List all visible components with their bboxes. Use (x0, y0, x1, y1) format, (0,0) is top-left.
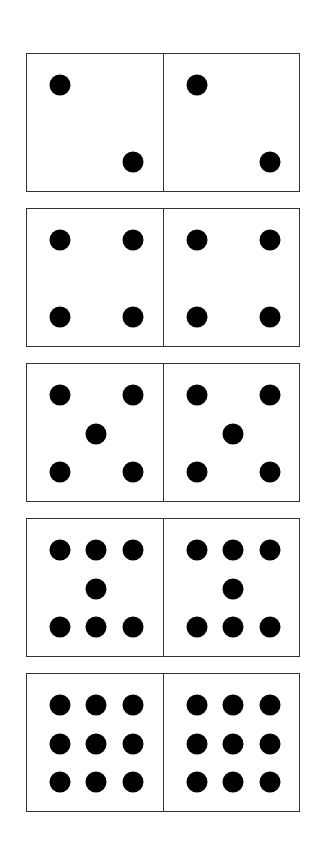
domino-half-left (27, 519, 164, 655)
pip-dot (260, 307, 281, 328)
domino-divider (163, 364, 164, 501)
pip-dot (86, 540, 107, 561)
pip-dot (260, 152, 281, 173)
pip-dot (223, 695, 244, 716)
pip-dot (187, 772, 208, 793)
pip-dot (123, 385, 144, 406)
domino-half-right (164, 209, 301, 345)
pip-dot (50, 385, 71, 406)
domino-half-right (164, 364, 301, 500)
domino-half-left (27, 209, 164, 345)
pip-dot (86, 617, 107, 638)
pip-dot (187, 75, 208, 96)
pip-dot (187, 307, 208, 328)
domino-half-right (164, 674, 301, 810)
pip-dot (50, 540, 71, 561)
pip-dot (86, 424, 107, 445)
domino-9-9 (26, 673, 300, 812)
pip-dot (260, 462, 281, 483)
pip-dot (223, 540, 244, 561)
domino-divider (163, 54, 164, 191)
pip-dot (86, 579, 107, 600)
pip-dot (187, 540, 208, 561)
pip-dot (50, 462, 71, 483)
pip-dot (260, 695, 281, 716)
pip-dot (123, 540, 144, 561)
pip-dot (260, 540, 281, 561)
pip-dot (50, 230, 71, 251)
pip-dot (123, 307, 144, 328)
pip-dot (50, 617, 71, 638)
pip-dot (223, 772, 244, 793)
domino-4-4 (26, 208, 300, 347)
pip-dot (260, 772, 281, 793)
pip-dot (260, 385, 281, 406)
pip-dot (223, 579, 244, 600)
domino-half-left (27, 54, 164, 190)
pip-dot (50, 734, 71, 755)
domino-5-5 (26, 363, 300, 502)
pip-dot (260, 734, 281, 755)
domino-7-7 (26, 518, 300, 657)
pip-dot (123, 230, 144, 251)
pip-dot (86, 695, 107, 716)
domino-half-right (164, 519, 301, 655)
pip-dot (123, 734, 144, 755)
pip-dot (123, 617, 144, 638)
pip-dot (187, 462, 208, 483)
pip-dot (187, 734, 208, 755)
pip-dot (223, 424, 244, 445)
pip-dot (50, 695, 71, 716)
domino-2-2 (26, 53, 300, 192)
pip-dot (187, 230, 208, 251)
domino-divider (163, 674, 164, 811)
pip-dot (123, 695, 144, 716)
pip-dot (260, 617, 281, 638)
domino-divider (163, 519, 164, 656)
pip-dot (50, 307, 71, 328)
domino-half-left (27, 364, 164, 500)
domino-half-left (27, 674, 164, 810)
domino-half-right (164, 54, 301, 190)
pip-dot (223, 734, 244, 755)
pip-dot (123, 772, 144, 793)
pip-dot (223, 617, 244, 638)
pip-dot (50, 75, 71, 96)
pip-dot (86, 734, 107, 755)
pip-dot (123, 462, 144, 483)
pip-dot (123, 152, 144, 173)
pip-dot (50, 772, 71, 793)
pip-dot (187, 695, 208, 716)
pip-dot (187, 385, 208, 406)
pip-dot (86, 772, 107, 793)
domino-divider (163, 209, 164, 346)
pip-dot (260, 230, 281, 251)
pip-dot (187, 617, 208, 638)
